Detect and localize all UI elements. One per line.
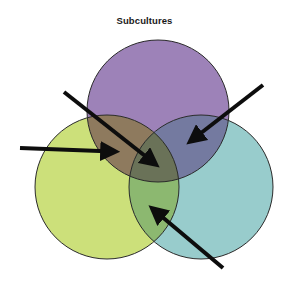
venn-diagram [0, 0, 289, 285]
